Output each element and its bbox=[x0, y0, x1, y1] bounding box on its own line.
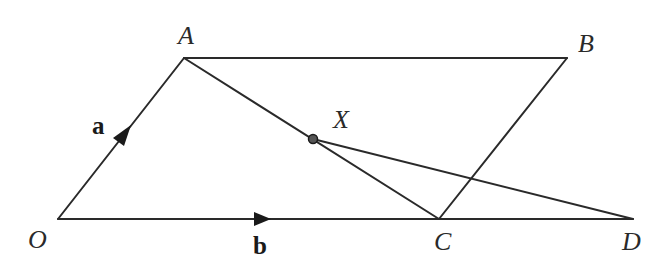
segment-bc bbox=[439, 58, 567, 219]
label-d-point: D bbox=[621, 227, 641, 256]
arrow-a-icon bbox=[113, 125, 131, 146]
arrow-b-icon bbox=[254, 212, 271, 226]
label-vector-a: a bbox=[92, 112, 105, 139]
label-b-point: B bbox=[578, 29, 594, 58]
vector-diagram: A B X O C D a b bbox=[0, 0, 671, 271]
point-x-marker bbox=[309, 135, 318, 144]
label-o-point: O bbox=[28, 225, 47, 254]
label-c-point: C bbox=[434, 227, 452, 256]
segment-xd bbox=[313, 139, 633, 219]
label-x-point: X bbox=[332, 105, 350, 134]
label-vector-b: b bbox=[253, 232, 267, 259]
label-a-point: A bbox=[176, 21, 194, 50]
